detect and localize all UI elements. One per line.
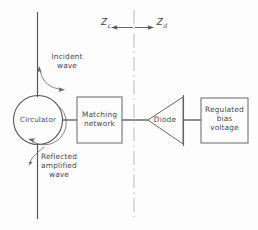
bias-voltage-label: Regulated bias voltage xyxy=(202,105,247,133)
diode-label: Diode xyxy=(150,115,180,124)
incident-wave-arrowhead-right-icon xyxy=(58,87,65,92)
incident-wave-curve xyxy=(40,69,62,90)
zc-subscript: c xyxy=(107,22,111,29)
impedance-label-zc: Zc xyxy=(96,18,116,30)
reflected-wave-label: Reflected amplified wave xyxy=(28,152,90,180)
matching-network-label: Matching network xyxy=(77,110,122,128)
diagram-canvas: Zc Zd Incident wave Reflected amplified … xyxy=(0,0,258,230)
circulator-label: Circulator xyxy=(9,115,67,124)
zd-subscript: d xyxy=(163,22,167,29)
incident-wave-label: Incident wave xyxy=(40,52,94,70)
impedance-label-zd: Zd xyxy=(152,18,172,30)
